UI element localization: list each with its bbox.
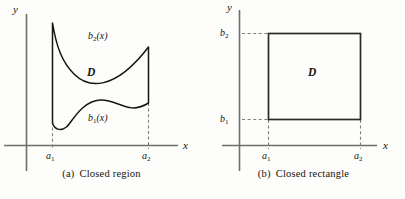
lower-curve-subscript: 1 — [93, 117, 97, 125]
caption-tag-b: (b) — [258, 168, 271, 179]
tick-label-b1: b1 — [220, 114, 229, 124]
x-axis-label: x — [383, 140, 388, 151]
x-axis-label: x — [183, 140, 188, 151]
y-axis-label: y — [227, 2, 232, 13]
figure-closed-regions: y x b2(x) D b1(x) a1 a2 (a)Closed region — [0, 0, 405, 199]
tick-a2-subscript: 2 — [359, 155, 363, 163]
tick-a1-subscript: 1 — [267, 155, 271, 163]
region-label-d: D — [87, 67, 95, 79]
caption-panel-a: (a)Closed region — [0, 168, 203, 179]
tick-label-a2: a2 — [142, 151, 151, 161]
caption-text-b: Closed rectangle — [276, 168, 349, 179]
caption-panel-b: (b)Closed rectangle — [202, 168, 405, 179]
tick-label-a1: a1 — [262, 151, 271, 161]
upper-curve-argument: (x) — [97, 30, 108, 41]
upper-curve-label: b2(x) — [88, 31, 108, 41]
region-label-d: D — [308, 67, 316, 79]
lower-curve-label: b1(x) — [88, 113, 108, 123]
lower-curve-argument: (x) — [97, 112, 108, 123]
upper-curve-subscript: 2 — [93, 35, 97, 43]
tick-label-a2: a2 — [354, 151, 363, 161]
caption-tag-a: (a) — [62, 168, 74, 179]
tick-b2-subscript: 2 — [225, 32, 229, 40]
tick-b1-subscript: 1 — [225, 118, 229, 126]
tick-a2-subscript: 2 — [147, 155, 151, 163]
panel-closed-region: y x b2(x) D b1(x) a1 a2 (a)Closed region — [0, 0, 203, 199]
y-axis-label: y — [13, 4, 18, 15]
caption-text-a: Closed region — [80, 168, 141, 179]
tick-a1-subscript: 1 — [51, 155, 55, 163]
panel-closed-rectangle: y x b2 b1 D a1 a2 (b)Closed rectangle — [202, 0, 405, 199]
tick-label-a1: a1 — [46, 151, 55, 161]
tick-label-b2: b2 — [220, 28, 229, 38]
